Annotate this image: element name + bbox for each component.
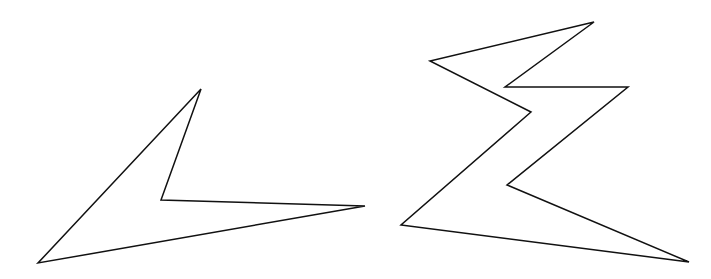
diagram-canvas: [0, 0, 711, 279]
left-polygon: [38, 89, 365, 263]
right-polygon: [401, 22, 689, 262]
